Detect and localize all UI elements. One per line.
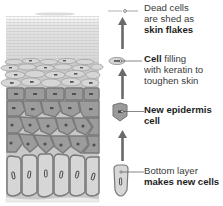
basal-cell-icon <box>113 164 145 198</box>
label-dead-cells: Dead cells are shed as skin flakes <box>144 2 194 35</box>
up-arrow-icon <box>118 17 127 49</box>
label-bottom-layer: Bottom layer makes new cells <box>144 165 219 187</box>
up-arrow-icon <box>118 68 127 99</box>
basal-cell-layer <box>7 154 99 197</box>
dead-cell-flake-icon <box>108 6 138 16</box>
flattened-cell-icon <box>108 55 144 67</box>
skin-cross-section-illustration <box>0 0 105 206</box>
polygonal-cell-layer <box>7 88 99 153</box>
label-new-epidermis-cell: New epidermis cell <box>144 104 212 126</box>
flattened-cell-layer <box>1 58 103 87</box>
label-keratin-cell: Cell filling with keratin to toughen ski… <box>144 53 203 86</box>
up-arrow-icon <box>118 130 127 161</box>
polygonal-cell-icon <box>111 102 145 122</box>
